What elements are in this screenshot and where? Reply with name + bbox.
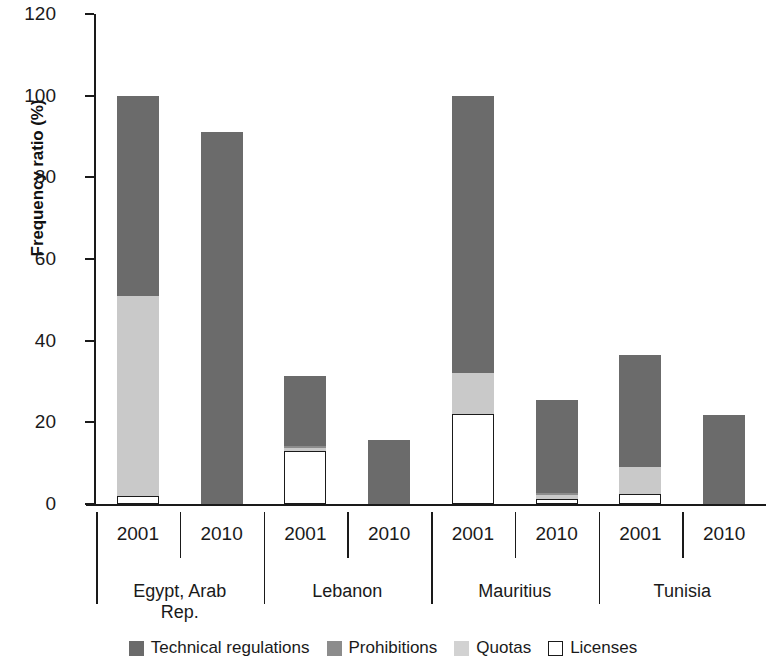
- legend-item[interactable]: Quotas: [454, 638, 531, 658]
- legend-label: Prohibitions: [349, 638, 438, 658]
- bar-segment: [452, 373, 494, 414]
- x-axis-separator: [599, 512, 601, 558]
- x-axis-country-label: Egypt, ArabRep.: [96, 581, 264, 622]
- bar-segment: [452, 414, 494, 504]
- bar: [284, 376, 326, 504]
- x-axis-year-label: 2010: [515, 524, 599, 543]
- x-axis-group-separator: [431, 558, 433, 604]
- x-axis-year-label: 2010: [180, 524, 264, 543]
- x-axis-country-label: Lebanon: [264, 581, 432, 602]
- bar: [117, 96, 159, 504]
- legend-swatch-icon: [327, 641, 342, 656]
- bar-segment: [117, 496, 159, 504]
- bar-segment: [452, 96, 494, 374]
- legend-item[interactable]: Prohibitions: [327, 638, 438, 658]
- y-tick-label: 60: [10, 249, 56, 268]
- y-tick-label: 80: [10, 167, 56, 186]
- bar: [201, 132, 243, 504]
- legend-label: Licenses: [570, 638, 637, 658]
- y-tick-label: 40: [10, 331, 56, 350]
- y-tick-label: 0: [10, 494, 56, 513]
- chart-legend: Technical regulationsProhibitionsQuotasL…: [0, 638, 766, 658]
- bar-segment: [619, 494, 661, 504]
- bar-segment: [368, 440, 410, 504]
- y-tick-mark: [85, 13, 94, 15]
- bar-segment: [619, 467, 661, 494]
- legend-item[interactable]: Licenses: [548, 638, 637, 658]
- country-label-line: Lebanon: [264, 581, 432, 602]
- legend-swatch-icon: [548, 641, 563, 656]
- country-label-line: Tunisia: [599, 581, 766, 602]
- bar-segment: [703, 415, 745, 504]
- bar: [368, 440, 410, 504]
- x-axis-separator: [515, 512, 517, 558]
- x-axis-year-label: 2001: [264, 524, 348, 543]
- x-axis-separator: [347, 512, 349, 558]
- y-tick-label: 100: [10, 86, 56, 105]
- y-tick-label: 120: [10, 4, 56, 23]
- legend-label: Quotas: [476, 638, 531, 658]
- x-axis-separator: [264, 512, 266, 558]
- y-tick-mark: [85, 176, 94, 178]
- bar-segment: [536, 400, 578, 494]
- x-axis-year-label: 2001: [96, 524, 180, 543]
- country-label-line: Egypt, Arab: [96, 581, 264, 602]
- x-axis-separator: [431, 512, 433, 558]
- legend-label: Technical regulations: [151, 638, 310, 658]
- x-axis-year-label: 2001: [599, 524, 683, 543]
- legend-swatch-icon: [129, 641, 144, 656]
- y-tick-mark: [85, 421, 94, 423]
- x-axis-country-label: Mauritius: [431, 581, 599, 602]
- legend-swatch-icon: [454, 641, 469, 656]
- bar-segment: [201, 132, 243, 504]
- x-axis-group-separator: [599, 558, 601, 604]
- x-axis-line: [86, 504, 766, 506]
- bar-segment: [117, 296, 159, 496]
- country-label-line: Rep.: [96, 602, 264, 623]
- x-axis-country-label: Tunisia: [599, 581, 766, 602]
- bar-segment: [284, 376, 326, 445]
- bar: [619, 355, 661, 504]
- x-axis-year-label: 2001: [431, 524, 515, 543]
- x-axis-year-label: 2010: [347, 524, 431, 543]
- x-axis-group-separator: [264, 558, 266, 604]
- x-axis-separator: [682, 512, 684, 558]
- x-axis-separator: [180, 512, 182, 558]
- bar-segment: [117, 96, 159, 296]
- y-tick-mark: [85, 340, 94, 342]
- y-tick-label: 20: [10, 412, 56, 431]
- y-tick-mark: [85, 258, 94, 260]
- bar-segment: [536, 499, 578, 504]
- country-label-line: Mauritius: [431, 581, 599, 602]
- bar-segment: [619, 355, 661, 467]
- x-axis-year-label: 2010: [682, 524, 766, 543]
- bar: [452, 96, 494, 504]
- bar: [703, 415, 745, 504]
- y-tick-mark: [85, 95, 94, 97]
- legend-item[interactable]: Technical regulations: [129, 638, 310, 658]
- plot-area: [96, 14, 766, 504]
- stacked-bar-chart: Frequency ratio (%) 020406080100120 2001…: [0, 0, 766, 670]
- bar-segment: [284, 451, 326, 504]
- bar: [536, 400, 578, 505]
